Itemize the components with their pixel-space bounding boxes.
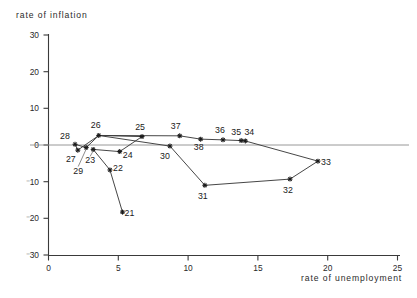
y-tick-label: 10 bbox=[30, 103, 40, 113]
y-tick-label: 20 bbox=[30, 67, 40, 77]
series-segment bbox=[201, 139, 223, 140]
data-point-marker bbox=[117, 149, 122, 154]
series-segment bbox=[245, 141, 318, 161]
data-point-label: 30 bbox=[160, 151, 170, 161]
data-point-label: 35 bbox=[231, 127, 241, 137]
data-point-marker bbox=[75, 148, 80, 153]
data-point-marker bbox=[239, 138, 244, 143]
data-point-marker bbox=[73, 142, 78, 147]
data-point-marker bbox=[288, 177, 293, 182]
x-tick-label: 25 bbox=[393, 263, 403, 273]
y-tick-label: ⁻10 bbox=[26, 177, 40, 187]
y-axis-title: rate of inflation bbox=[16, 10, 88, 20]
data-point-label: 22 bbox=[113, 163, 123, 173]
data-point-label: 21 bbox=[125, 208, 135, 218]
data-point-label: 37 bbox=[171, 121, 181, 131]
y-tick-label: ⁻20 bbox=[26, 213, 40, 223]
x-axis-ticks bbox=[49, 256, 398, 261]
data-point-label: 25 bbox=[135, 122, 145, 132]
data-point-label: 28 bbox=[60, 131, 70, 141]
y-tick-label: 30 bbox=[30, 30, 40, 40]
x-tick-label: 5 bbox=[116, 263, 121, 273]
data-point-marker bbox=[167, 144, 172, 149]
data-point-marker bbox=[107, 167, 112, 172]
series-segment bbox=[205, 179, 290, 185]
series-segment bbox=[180, 136, 201, 139]
data-point-marker bbox=[96, 133, 101, 138]
data-point-marker bbox=[221, 137, 226, 142]
x-tick-label: 20 bbox=[323, 263, 333, 273]
series-segment bbox=[290, 161, 318, 179]
data-point-label: 33 bbox=[321, 157, 331, 167]
data-point-label: 29 bbox=[73, 166, 83, 176]
data-point-label: 27 bbox=[66, 154, 76, 164]
data-point-label: 34 bbox=[244, 127, 254, 137]
data-point-label: 26 bbox=[91, 120, 101, 130]
data-point-label: 32 bbox=[283, 185, 293, 195]
data-point-label: 23 bbox=[85, 155, 95, 165]
series-segment bbox=[110, 170, 123, 212]
data-point-label: 31 bbox=[198, 191, 208, 201]
data-point-label: 38 bbox=[194, 142, 204, 152]
data-point-marker bbox=[315, 159, 320, 164]
x-tick-label: 10 bbox=[183, 263, 193, 273]
data-point-label: 24 bbox=[123, 150, 133, 160]
x-axis-title: rate of unemployment bbox=[301, 273, 402, 283]
data-point-label: 36 bbox=[215, 125, 225, 135]
series-segment bbox=[93, 149, 120, 151]
data-point-marker bbox=[202, 183, 207, 188]
phillips-curve-chart: rate of inflation rate of unemployment 3… bbox=[0, 0, 417, 298]
y-tick-label: ⁻30 bbox=[26, 250, 40, 260]
x-tick-label: 0 bbox=[46, 263, 51, 273]
data-point-marker bbox=[140, 134, 145, 139]
x-axis-tick-labels: 0 5 10 15 20 25 bbox=[46, 263, 402, 273]
series-segment bbox=[99, 135, 170, 146]
data-point-marker bbox=[177, 133, 182, 138]
series-segment bbox=[86, 135, 99, 147]
chart-container: rate of inflation rate of unemployment 3… bbox=[0, 0, 417, 298]
series-segment bbox=[223, 140, 241, 141]
x-tick-label: 15 bbox=[253, 263, 263, 273]
data-point-marker bbox=[198, 137, 203, 142]
series-segment bbox=[93, 149, 110, 170]
